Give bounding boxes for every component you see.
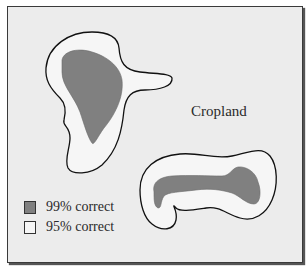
legend-label-95: 95% correct xyxy=(46,219,114,235)
legend-item-99: 99% correct xyxy=(24,197,114,217)
legend-label-99: 99% correct xyxy=(46,199,114,215)
swatch-99-icon xyxy=(24,201,36,214)
cropland-label: Cropland xyxy=(191,103,247,120)
swatch-95-icon xyxy=(24,221,36,234)
legend: 99% correct 95% correct xyxy=(24,197,114,237)
legend-item-95: 95% correct xyxy=(24,217,114,237)
